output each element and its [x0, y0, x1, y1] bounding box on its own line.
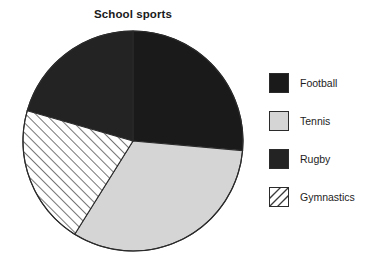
pie-chart-figure: School sports Football Tennis Rugby — [0, 0, 382, 261]
legend-item-gymnastics[interactable]: Gymnastics — [269, 178, 382, 216]
diagonal-hatch-icon — [270, 188, 288, 206]
legend-label-rugby: Rugby — [300, 154, 330, 165]
legend-label-football: Football — [300, 78, 337, 89]
legend-label-tennis: Tennis — [300, 116, 330, 127]
legend-swatch-football — [269, 73, 289, 93]
legend-swatch-rugby — [269, 149, 289, 169]
chart-legend: Football Tennis Rugby Gymnastic — [269, 64, 382, 216]
legend-label-gymnastics: Gymnastics — [300, 192, 355, 203]
legend-item-rugby[interactable]: Rugby — [269, 140, 382, 178]
legend-swatch-gymnastics — [269, 187, 289, 207]
pie-slice-football[interactable] — [133, 31, 243, 151]
legend-item-tennis[interactable]: Tennis — [269, 102, 382, 140]
legend-swatch-tennis — [269, 111, 289, 131]
legend-item-football[interactable]: Football — [269, 64, 382, 102]
